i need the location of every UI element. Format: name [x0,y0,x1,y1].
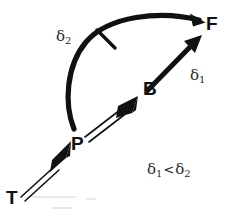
node-label-t: T [6,188,18,207]
inequality-relation: < [162,162,175,177]
diagram-vector-layer [0,0,232,219]
inequality-left-symbol: δ [147,160,156,178]
delta2-label: δ2 [56,29,71,46]
delta2-symbol: δ [56,27,65,45]
arc-tick-mark [97,30,115,48]
edge-p-to-f-arc [68,14,205,130]
delta2-subscript: 2 [65,35,71,46]
node-label-p: P [71,134,84,153]
delta1-subscript: 1 [199,74,205,85]
delta-inequality-label: δ1<δ2 [147,162,191,179]
node-label-f: F [206,14,218,33]
edge-t-to-p [21,141,71,201]
inequality-right-subscript: 2 [184,168,190,179]
delta1-label: δ1 [190,68,205,85]
edge-p-to-b [85,96,138,142]
delta1-symbol: δ [190,66,199,84]
node-label-b: B [143,79,157,98]
diagram-canvas: T P B F δ2 δ1 δ1<δ2 [0,0,232,219]
inequality-right-symbol: δ [175,160,184,178]
